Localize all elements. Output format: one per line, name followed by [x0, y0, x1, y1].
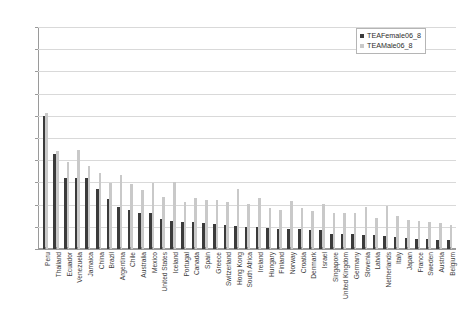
bar-group	[83, 27, 94, 249]
bar-group	[349, 27, 360, 249]
bar-male	[396, 216, 399, 249]
x-axis-tick-mark	[450, 247, 451, 250]
x-axis-label-slot: China	[93, 250, 104, 312]
bar-group	[114, 27, 125, 249]
x-axis-label-slot: Switzerland	[221, 250, 232, 312]
x-axis-label-slot: Peru	[40, 250, 51, 312]
bar-male	[205, 200, 208, 249]
bar-male	[130, 184, 133, 249]
x-axis-label-slot: United Kingdom	[338, 250, 349, 312]
x-axis-label-slot: Japan	[402, 250, 413, 312]
bar-male	[120, 175, 123, 249]
x-axis-label-slot: Venezuela	[72, 250, 83, 312]
bar-group	[306, 27, 317, 249]
x-axis-tick-mark	[141, 247, 142, 250]
x-axis-tick-mark	[375, 247, 376, 250]
x-axis-tick-mark	[120, 247, 121, 250]
bar-male	[407, 220, 410, 249]
bar-male	[311, 211, 314, 249]
legend-item-male: TEAMale06_8	[360, 41, 421, 50]
bar-group	[40, 27, 51, 249]
x-axis-tick-mark	[269, 247, 270, 250]
bar-male	[301, 208, 304, 249]
legend-swatch-female-icon	[360, 34, 364, 38]
bar-group	[200, 27, 211, 249]
x-axis-label-slot: Iceland	[168, 250, 179, 312]
bar-group	[412, 27, 423, 249]
bar-male	[386, 206, 389, 249]
bar-male	[343, 213, 346, 249]
x-axis-label-slot: Israel	[317, 250, 328, 312]
bar-male	[258, 198, 261, 250]
x-axis-tick-mark	[194, 247, 195, 250]
x-axis-label-slot: Belgium	[444, 250, 455, 312]
x-axis-label-slot: Jamaica	[83, 250, 94, 312]
x-axis-label-slot: Italy	[391, 250, 402, 312]
x-axis-label-slot: Argentina	[114, 250, 125, 312]
bar-group	[285, 27, 296, 249]
bar-group	[61, 27, 72, 249]
x-axis-tick-mark	[439, 247, 440, 250]
x-axis-label-slot: Greece	[210, 250, 221, 312]
bar-male	[45, 113, 48, 249]
bar-group	[232, 27, 243, 249]
x-axis-label-slot: Ireland	[253, 250, 264, 312]
bar-male	[67, 162, 70, 249]
bar-male	[322, 204, 325, 249]
bar-group	[381, 27, 392, 249]
bar-group	[93, 27, 104, 249]
bar-group	[51, 27, 62, 249]
x-axis-labels: PeruThailandEcuadorVenezuelaJamaicaChina…	[38, 250, 456, 312]
bar-male	[418, 221, 421, 249]
x-axis-tick-mark	[322, 247, 323, 250]
x-axis-label-slot: Germany	[349, 250, 360, 312]
x-axis-label-slot: Australia	[136, 250, 147, 312]
bar-group	[72, 27, 83, 249]
x-axis-label-slot: Norway	[285, 250, 296, 312]
bars-layer	[38, 27, 456, 249]
bar-male	[194, 198, 197, 250]
x-axis-tick-mark	[301, 247, 302, 250]
x-axis-label-slot: Canada	[189, 250, 200, 312]
x-axis-tick-mark	[184, 247, 185, 250]
bar-group	[423, 27, 434, 249]
bar-male	[279, 210, 282, 249]
bar-male	[173, 182, 176, 249]
bar-group	[157, 27, 168, 249]
x-axis-label-slot: Singapore	[327, 250, 338, 312]
x-axis-label-slot: Brazil	[104, 250, 115, 312]
x-axis-tick-mark	[279, 247, 280, 250]
bar-group	[402, 27, 413, 249]
bar-group	[242, 27, 253, 249]
x-axis-tick-mark	[173, 247, 174, 250]
x-axis-tick-mark	[67, 247, 68, 250]
x-axis-label-slot: Mexico	[146, 250, 157, 312]
x-axis-tick-mark	[386, 247, 387, 250]
x-axis-label-slot: Thailand	[51, 250, 62, 312]
x-axis-label-slot: Hungary	[263, 250, 274, 312]
bar-male	[141, 190, 144, 249]
bar-group	[210, 27, 221, 249]
bar-group	[253, 27, 264, 249]
bar-group	[189, 27, 200, 249]
bar-male	[216, 200, 219, 249]
x-axis-tick-mark	[77, 247, 78, 250]
bar-group	[434, 27, 445, 249]
bar-group	[370, 27, 381, 249]
x-axis-tick-mark	[216, 247, 217, 250]
bar-group	[295, 27, 306, 249]
x-axis-tick-mark	[365, 247, 366, 250]
bar-group	[327, 27, 338, 249]
plot-wrapper: 0.005.0010.0015.0020.0025.0030.0035.0040…	[38, 27, 456, 249]
bar-male	[162, 197, 165, 249]
legend-label-female: TEAFemale06_8	[367, 31, 421, 40]
bar-group	[104, 27, 115, 249]
x-axis-tick-mark	[258, 247, 259, 250]
bar-male	[439, 223, 442, 249]
x-axis-label-slot: Denmark	[306, 250, 317, 312]
bar-male	[99, 173, 102, 249]
x-axis-label-slot: Latvia	[370, 250, 381, 312]
x-axis-label-slot: Spain	[200, 250, 211, 312]
bar-male	[333, 213, 336, 249]
x-axis-tick-mark	[109, 247, 110, 250]
